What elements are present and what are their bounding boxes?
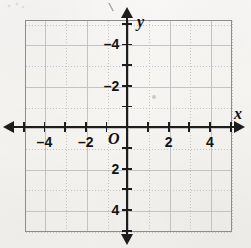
y-axis-tick — [122, 188, 132, 190]
gridline-horizontal-minor — [26, 66, 231, 67]
x-axis-left-arrowhead-icon — [3, 121, 14, 133]
y-axis-down-arrowhead-icon — [121, 234, 133, 245]
y-axis-tick — [122, 106, 132, 108]
gridline-horizontal-minor — [26, 149, 231, 150]
x-axis-tick — [44, 122, 46, 132]
x-axis-right-arrowhead-icon — [234, 121, 245, 133]
y-axis-tick — [122, 85, 132, 87]
y-axis-tick-label: 2 — [111, 162, 119, 176]
y-axis-tick — [122, 230, 132, 232]
scan-artifact-top-left — [6, 1, 32, 12]
x-axis-tick-label: –4 — [37, 135, 53, 149]
gridline-horizontal-major — [26, 45, 231, 46]
y-axis-tick — [122, 147, 132, 149]
y-axis-tick-label: –4 — [104, 37, 120, 51]
x-axis-tick-label: 4 — [206, 135, 214, 149]
gridline-horizontal-minor — [26, 232, 231, 233]
y-axis-tick — [122, 168, 132, 170]
x-axis-tick — [64, 122, 66, 132]
coordinate-plane-figure: –4–22442–2–4 y x O — [0, 0, 251, 248]
y-axis-tick — [122, 23, 132, 25]
x-axis-tick-label: –2 — [78, 135, 94, 149]
x-axis-tick — [188, 122, 190, 132]
x-axis-tick-label: 2 — [165, 135, 173, 149]
x-axis-label: x — [234, 106, 242, 122]
x-axis-tick — [23, 122, 25, 132]
origin-label: O — [108, 131, 120, 147]
scan-artifact-top — [107, 3, 115, 11]
x-axis-tick — [209, 122, 211, 132]
gridline-horizontal-major — [26, 211, 231, 212]
y-axis-line — [126, 12, 128, 239]
gridline-horizontal-minor — [26, 25, 231, 26]
y-axis-label: y — [137, 14, 144, 30]
x-axis-tick — [147, 122, 149, 132]
y-axis-tick — [122, 44, 132, 46]
y-axis-up-arrowhead-icon — [121, 7, 133, 18]
y-axis-tick — [122, 64, 132, 66]
x-axis-tick — [168, 122, 170, 132]
y-axis-tick-label: –2 — [104, 79, 120, 93]
y-axis-tick — [122, 209, 132, 211]
x-axis-tick — [230, 122, 232, 132]
gridline-horizontal-minor — [26, 108, 231, 109]
x-axis-tick — [85, 122, 87, 132]
y-axis-tick-label: 4 — [111, 203, 119, 217]
gridline-horizontal-major — [26, 170, 231, 171]
x-axis-line — [8, 126, 236, 128]
gridline-horizontal-minor — [26, 190, 231, 191]
gridline-horizontal-major — [26, 87, 231, 88]
